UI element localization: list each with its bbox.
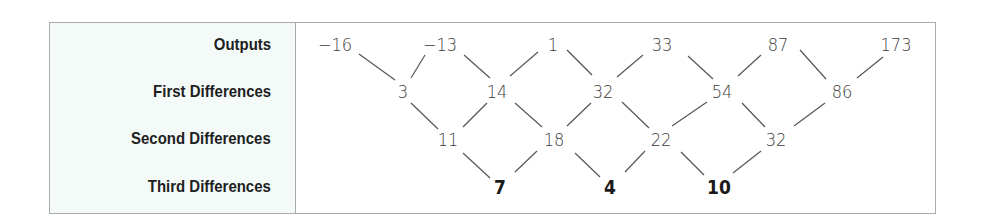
output-value: −16	[318, 35, 352, 55]
output-value: 173	[881, 35, 912, 55]
connector-line	[622, 102, 649, 128]
output-value: −13	[423, 35, 457, 55]
connector-line	[794, 103, 825, 126]
first-difference-value: 32	[593, 82, 614, 102]
connector-line	[567, 50, 592, 75]
first-difference-value: 54	[712, 82, 733, 102]
output-value: 87	[768, 35, 789, 55]
second-difference-value: 22	[651, 130, 672, 150]
third-difference-value: 7	[494, 177, 506, 197]
connector-line	[625, 151, 645, 172]
connector-line	[411, 55, 425, 78]
connector-line	[672, 102, 707, 126]
second-difference-value: 11	[438, 130, 459, 150]
connector-line	[411, 103, 438, 129]
first-difference-value: 86	[832, 82, 853, 102]
connector-line	[515, 151, 537, 172]
difference-diagram: −16 −13 1 33 87 173 3 14 32 54 86 11 18 …	[0, 0, 985, 224]
connector-line	[688, 56, 713, 79]
connector-line	[359, 54, 395, 80]
connector-line	[515, 103, 542, 127]
connector-line	[800, 50, 826, 79]
first-difference-value: 14	[487, 82, 508, 102]
connector-line	[681, 152, 704, 175]
first-difference-value: 3	[398, 82, 408, 102]
output-value: 33	[652, 35, 673, 55]
second-difference-value: 32	[766, 130, 787, 150]
connector-line	[857, 57, 883, 78]
connector-line	[575, 153, 600, 177]
connector-line	[617, 55, 643, 77]
connector-line	[464, 55, 490, 78]
connector-line	[463, 103, 487, 127]
connector-line	[567, 103, 591, 126]
connector-lines	[0, 0, 985, 224]
connector-line	[733, 151, 761, 173]
connector-line	[463, 153, 490, 178]
third-difference-value: 10	[707, 177, 731, 197]
connector-line	[742, 103, 765, 127]
third-difference-value: 4	[604, 177, 616, 197]
second-difference-value: 18	[544, 130, 565, 150]
output-value: 1	[548, 35, 558, 55]
connector-line	[738, 55, 761, 76]
connector-line	[510, 52, 538, 76]
